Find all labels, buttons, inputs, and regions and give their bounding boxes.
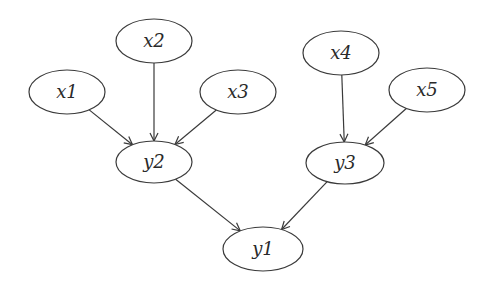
- node-y2: y2: [116, 141, 192, 183]
- node-x2: x2: [116, 19, 192, 63]
- node-label: x1: [56, 81, 78, 102]
- edge-x5-to-y3: [365, 108, 406, 145]
- nodes-layer: x1x2x3x4x5y2y3y1: [29, 19, 465, 271]
- node-x4: x4: [303, 31, 379, 75]
- edge-y3-to-y1: [282, 182, 328, 230]
- diagram-canvas: x1x2x3x4x5y2y3y1: [0, 0, 485, 287]
- dependency-graph: x1x2x3x4x5y2y3y1: [0, 0, 485, 287]
- node-label: y1: [251, 238, 274, 259]
- edge-x1-to-y2: [89, 110, 132, 145]
- edge-x4-to-y3: [342, 75, 344, 142]
- node-label: y3: [333, 152, 356, 173]
- node-x3: x3: [200, 70, 276, 114]
- node-label: x5: [416, 79, 438, 100]
- node-label: x4: [330, 42, 352, 63]
- node-x1: x1: [29, 70, 105, 114]
- node-label: x3: [227, 81, 249, 102]
- node-label: x2: [143, 30, 165, 51]
- node-y3: y3: [306, 142, 384, 184]
- edge-y2-to-y1: [176, 179, 241, 231]
- edge-x3-to-y2: [175, 110, 216, 144]
- node-x5: x5: [389, 68, 465, 112]
- node-label: y2: [142, 151, 165, 172]
- node-y1: y1: [223, 227, 303, 271]
